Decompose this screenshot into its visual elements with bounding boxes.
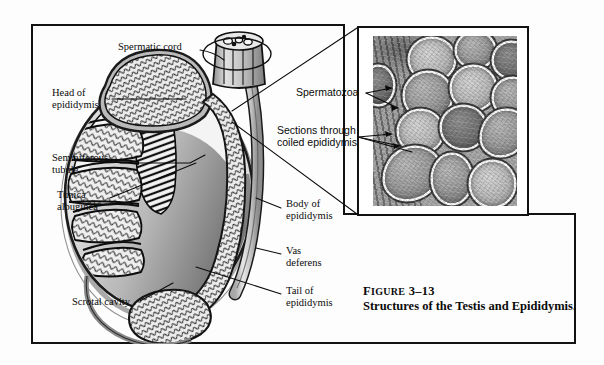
figure-border-lower: [31, 213, 576, 344]
label-head-of-epididymis: Head of epididymis: [52, 87, 99, 110]
micrograph-inset-frame: [357, 26, 529, 216]
figure-caption-label-line: FIGURE 3–13: [363, 284, 593, 299]
figure-border-upper: [31, 24, 345, 215]
label-seminiferous-tubule: Seminiferous tubule: [52, 152, 108, 175]
micrograph-grain: [373, 36, 517, 206]
epididymis-micrograph: [373, 36, 517, 206]
label-vas-deferens: Vas deferens: [286, 245, 322, 268]
figure-caption: FIGURE 3–13 Structures of the Testis and…: [363, 284, 593, 314]
figure-page: Spermatic cord Head of epididymis Semini…: [0, 0, 604, 365]
label-sections-through-coiled-epididymis: Sections through coiled epididymis: [277, 124, 357, 148]
label-tunica-albuginea: Tunica albuginea: [57, 189, 98, 212]
label-spermatozoa: Spermatozoa: [296, 86, 358, 98]
label-tail-of-epididymis: Tail of epididymis: [286, 285, 333, 308]
figure-caption-title: Structures of the Testis and Epididymis.: [363, 299, 593, 314]
label-scrotal-cavity: Scrotal cavity: [72, 296, 130, 308]
figure-word: FIGURE: [363, 284, 405, 298]
label-body-of-epididymis: Body of epididymis: [286, 198, 333, 221]
figure-number: 3–13: [409, 284, 435, 298]
label-spermatic-cord: Spermatic cord: [118, 41, 182, 53]
